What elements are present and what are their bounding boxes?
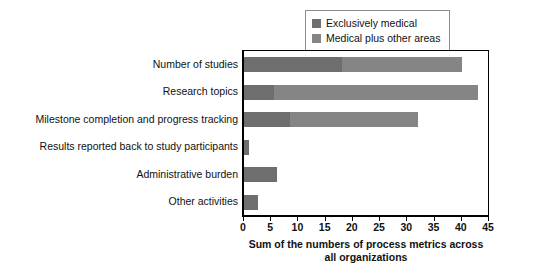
y-axis-category-label: Results reported back to study participa… (0, 140, 238, 152)
x-axis-tick-label: 25 (373, 221, 385, 234)
y-axis-category-label: Administrative burden (0, 168, 238, 180)
bar-segment (290, 112, 418, 127)
x-axis-tick-label: 10 (292, 221, 304, 234)
bar-row (244, 51, 462, 79)
bar-segment (244, 167, 277, 182)
x-axis-tick-label: 45 (482, 221, 494, 234)
bar-segment (244, 85, 274, 100)
bar-segment (244, 140, 249, 155)
chart-figure: Exclusively medical Medical plus other a… (0, 0, 557, 279)
bar-stack (244, 85, 478, 100)
y-axis-category-label: Other activities (0, 195, 238, 207)
legend-item-medical-plus-other-areas: Medical plus other areas (312, 31, 440, 45)
y-axis-category-label: Research topics (0, 85, 238, 97)
bar-row (244, 106, 418, 134)
bar-row (244, 189, 258, 217)
bar-stack (244, 167, 277, 182)
x-axis-title-line-1: Sum of the numbers of process metrics ac… (242, 238, 490, 251)
legend-item-exclusively-medical: Exclusively medical (312, 16, 440, 30)
bar-stack (244, 140, 249, 155)
bar-stack (244, 57, 462, 72)
y-axis-category-labels: Number of studiesResearch topicsMileston… (0, 50, 238, 215)
x-axis-tick-label: 15 (319, 221, 331, 234)
x-axis-tick-label: 40 (455, 221, 467, 234)
x-axis-tick-label: 20 (346, 221, 358, 234)
bar-row (244, 161, 277, 189)
bar-segment (244, 195, 258, 210)
bar-row (244, 134, 249, 162)
bar-segment (274, 85, 478, 100)
bar-stack (244, 112, 418, 127)
bar-segment (244, 57, 342, 72)
x-axis-tick-label: 0 (240, 221, 246, 234)
x-axis-tick-labels: 051015202530354045 (242, 221, 490, 235)
chart-legend: Exclusively medical Medical plus other a… (305, 10, 450, 51)
bar-segment (342, 57, 462, 72)
y-axis-category-label: Number of studies (0, 58, 238, 70)
x-axis-tick-label: 35 (428, 221, 440, 234)
plot-area (242, 50, 489, 217)
x-axis-title-line-2: all organizations (242, 251, 490, 264)
bar-row (244, 79, 478, 107)
x-axis-tick-label: 30 (400, 221, 412, 234)
legend-label: Medical plus other areas (326, 32, 440, 44)
y-axis-category-label: Milestone completion and progress tracki… (0, 113, 238, 125)
x-axis-title: Sum of the numbers of process metrics ac… (242, 238, 490, 264)
legend-swatch-icon (312, 19, 321, 28)
bars-layer (244, 51, 488, 215)
x-axis-tick-label: 5 (267, 221, 273, 234)
legend-label: Exclusively medical (326, 17, 417, 29)
bar-stack (244, 195, 258, 210)
bar-segment (244, 112, 290, 127)
legend-swatch-icon (312, 34, 321, 43)
